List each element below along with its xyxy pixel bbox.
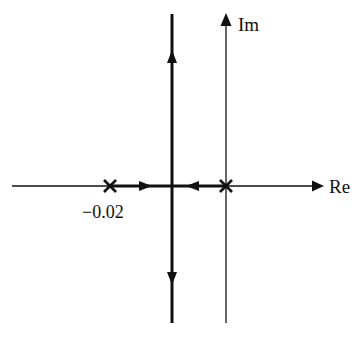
root-locus-diagram: Im Re −0.02: [0, 0, 356, 339]
locus-vertical-branch: [167, 14, 177, 323]
real-axis-label: Re: [329, 176, 350, 197]
imag-axis-label: Im: [238, 14, 259, 35]
imag-axis-arrow-icon: [221, 13, 232, 26]
locus-arrow-up-icon: [167, 50, 177, 63]
locus-arrow-down-icon: [167, 272, 177, 285]
locus-arrow-left-icon: [186, 181, 199, 191]
imaginary-axis: [221, 13, 232, 323]
locus-arrow-right-icon: [139, 181, 152, 191]
pole-value-label: −0.02: [82, 202, 124, 222]
real-axis-arrow-icon: [312, 181, 324, 192]
locus-real-segment: [110, 181, 226, 191]
